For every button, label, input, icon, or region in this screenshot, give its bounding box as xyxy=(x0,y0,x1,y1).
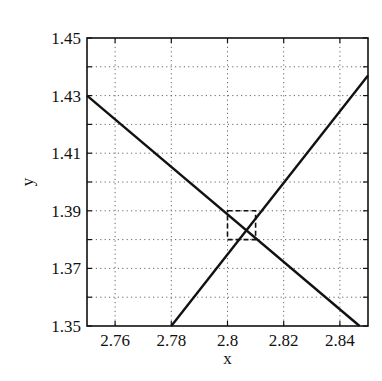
x-axis-label: x xyxy=(223,349,232,368)
y-tick-labels: 1.351.371.391.411.431.45 xyxy=(51,29,81,336)
x-tick-label: 2.82 xyxy=(269,331,299,350)
x-tick-label: 2.84 xyxy=(325,331,355,350)
y-tick-label: 1.39 xyxy=(51,202,81,221)
y-axis-label: y xyxy=(18,177,37,186)
axis-ticks xyxy=(87,38,368,326)
line-descending xyxy=(87,96,360,326)
x-tick-labels: 2.762.782.82.822.84 xyxy=(100,331,355,350)
grid-lines xyxy=(87,38,368,326)
y-tick-label: 1.45 xyxy=(51,29,81,48)
y-tick-label: 1.37 xyxy=(51,259,81,278)
y-tick-label: 1.43 xyxy=(51,87,81,106)
x-tick-label: 2.78 xyxy=(156,331,186,350)
plot-frame xyxy=(87,38,368,326)
x-tick-label: 2.76 xyxy=(100,331,130,350)
y-tick-label: 1.35 xyxy=(51,317,81,336)
y-tick-label: 1.41 xyxy=(51,144,81,163)
x-tick-label: 2.8 xyxy=(217,331,238,350)
line-chart: 2.762.782.82.822.84 1.351.371.391.411.43… xyxy=(0,0,382,381)
line-ascending xyxy=(171,75,368,326)
